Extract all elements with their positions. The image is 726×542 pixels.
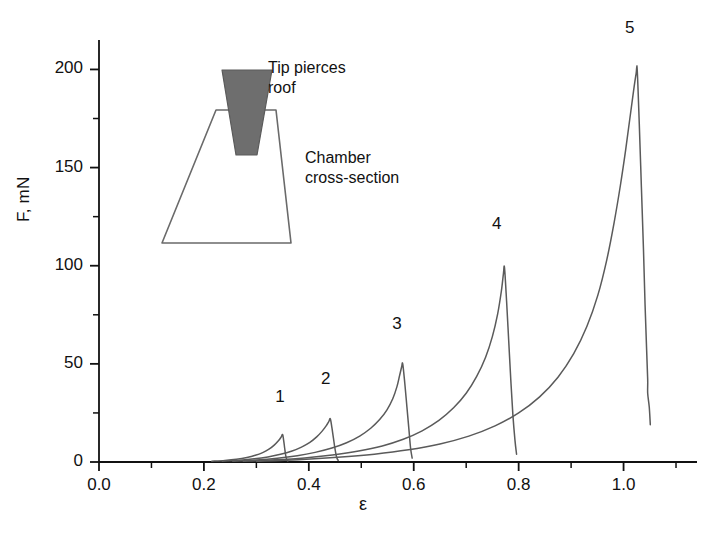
curve-label-1: 1 <box>268 387 292 407</box>
y-axis-tick-label: 100 <box>0 255 83 275</box>
chamber-label-line-1: Chamber <box>305 148 399 168</box>
curve-label-3: 3 <box>385 314 409 334</box>
y-axis-tick-label: 50 <box>0 353 83 373</box>
y-axis-tick-label: 0 <box>0 451 83 471</box>
chamber-label-line-2: cross-section <box>305 168 399 188</box>
y-axis-tick-label: 200 <box>0 58 83 78</box>
curve-label-2: 2 <box>314 369 338 389</box>
x-axis-tick-label: 0.8 <box>479 475 559 495</box>
curve-4 <box>243 266 516 461</box>
x-axis-tick-label: 1.0 <box>584 475 664 495</box>
x-axis-tick-label: 0.2 <box>164 475 244 495</box>
tip-label-line-2: roof <box>268 78 346 98</box>
x-axis-tick-label: 0.4 <box>269 475 349 495</box>
x-axis-tick-label: 0.6 <box>374 475 454 495</box>
x-axis-tick-label: 0.0 <box>59 475 139 495</box>
tip-label-line-1: Tip pierces <box>268 58 346 78</box>
curve-1 <box>212 434 288 461</box>
x-axis-label: ε <box>0 494 726 515</box>
y-axis-label: F, mN <box>14 177 34 222</box>
axes <box>90 40 697 471</box>
curve-label-4: 4 <box>485 214 509 234</box>
tip-pierces-roof-label: Tip pierces roof <box>268 58 346 98</box>
force-strain-plot <box>0 0 726 542</box>
y-axis-tick-label: 150 <box>0 157 83 177</box>
chart-figure: F, mN ε 0501001502000.00.20.40.60.81.0 1… <box>0 0 726 542</box>
chamber-cross-section-label: Chamber cross-section <box>305 148 399 188</box>
chamber-cross-section-shape <box>162 110 291 243</box>
curve-label-5: 5 <box>618 18 642 38</box>
curve-5 <box>256 66 650 461</box>
curve-2 <box>222 419 338 462</box>
